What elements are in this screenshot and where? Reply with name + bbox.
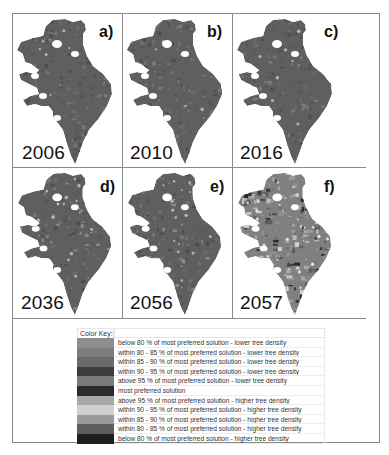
legend-item: within 85 - 90 % of most preferred solut… — [77, 357, 325, 367]
panel-year: 2010 — [130, 142, 173, 164]
legend-item: within 80 - 85 % of most preferred solut… — [77, 348, 325, 358]
map-panel-c: c) 2016 — [233, 14, 366, 167]
legend-item: within 80 - 85 % of most preferred solut… — [77, 424, 325, 434]
map-panel-b: b) 2010 — [123, 14, 232, 167]
legend-item: below 80 % of most preferred solution - … — [77, 338, 325, 348]
legend-item: within 90 - 95 % of most preferred solut… — [77, 367, 325, 377]
legend-swatch — [77, 424, 114, 434]
legend-label: within 80 - 85 % of most preferred solut… — [114, 348, 325, 358]
panel-year: 2036 — [21, 292, 64, 314]
legend-swatch — [77, 396, 114, 406]
legend-swatch — [77, 434, 114, 444]
legend-title: Color Key: — [77, 328, 114, 338]
legend-label: below 80 % of most preferred solution - … — [114, 434, 325, 444]
panel-year: 2006 — [22, 142, 65, 164]
legend-label: below 80 % of most preferred solution - … — [114, 338, 325, 348]
panel-letter: c) — [324, 23, 338, 41]
legend-label: within 80 - 85 % of most preferred solut… — [114, 424, 325, 434]
legend-item: above 95 % of most preferred solution - … — [77, 396, 325, 406]
map-panel-f: f) 2057 — [233, 168, 366, 318]
legend-label: most preferred solution — [114, 386, 325, 396]
legend-label: within 85 - 90 % of most preferred solut… — [114, 357, 325, 367]
legend-rows: below 80 % of most preferred solution - … — [77, 338, 325, 444]
legend-item: within 90 - 95 % of most preferred solut… — [77, 405, 325, 415]
legend-swatch — [77, 348, 114, 358]
map-panel-e: e) 2056 — [123, 168, 232, 318]
legend-label: above 95 % of most preferred solution - … — [114, 376, 325, 386]
panel-year: 2016 — [240, 142, 283, 164]
legend-item: most preferred solution — [77, 386, 325, 396]
legend-header-cell — [114, 328, 325, 338]
legend-swatch — [77, 415, 114, 425]
legend-swatch — [77, 338, 114, 348]
legend-swatch — [77, 367, 114, 377]
panel-letter: f) — [324, 178, 335, 196]
panel-year: 2056 — [130, 292, 173, 314]
legend-swatch — [77, 386, 114, 396]
map-panel-a: a) 2006 — [13, 14, 122, 167]
panel-letter: a) — [99, 23, 113, 41]
legend-swatch — [77, 376, 114, 386]
legend-label: within 85 - 90 % of most preferred solut… — [114, 415, 325, 425]
legend-swatch — [77, 405, 114, 415]
legend-label: within 90 - 95 % of most preferred solut… — [114, 367, 325, 377]
panel-letter: d) — [100, 178, 115, 196]
map-panel-d: d) 2036 — [13, 168, 122, 318]
color-key-legend: Color Key: below 80 % of most preferred … — [77, 328, 325, 444]
legend-item: above 95 % of most preferred solution - … — [77, 376, 325, 386]
legend-label: above 95 % of most preferred solution - … — [114, 396, 325, 406]
legend-swatch — [77, 357, 114, 367]
legend-item: within 85 - 90 % of most preferred solut… — [77, 415, 325, 425]
legend-label: within 90 - 95 % of most preferred solut… — [114, 405, 325, 415]
panel-letter: e) — [210, 178, 224, 196]
legend-item: below 80 % of most preferred solution - … — [77, 434, 325, 444]
row-divider-2 — [12, 318, 366, 319]
panel-letter: b) — [207, 23, 222, 41]
panel-year: 2057 — [240, 292, 283, 314]
